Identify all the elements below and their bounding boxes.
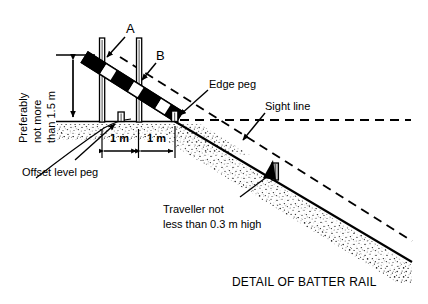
- label-b-group: B: [142, 48, 165, 80]
- sight-line-leader: [243, 113, 265, 140]
- dim-label-left: 1 m: [110, 132, 129, 144]
- edge-peg-label: Edge peg: [209, 78, 256, 90]
- traveller: [263, 160, 278, 180]
- height-note-line-3: than 1.5 m: [45, 91, 57, 143]
- sight-line-label: Sight line: [265, 100, 310, 112]
- offset-level-peg-label: Offset level peg: [22, 166, 98, 178]
- figure-root: Preferably not more than 1.5 m: [0, 0, 428, 304]
- traveller-note-line-1: Traveller not: [163, 203, 224, 215]
- label-a: A: [126, 21, 135, 36]
- dim-label-right: 1 m: [147, 132, 166, 144]
- batter-rail-board: [81, 52, 182, 122]
- batter-rail-diagram: Preferably not more than 1.5 m: [0, 0, 428, 304]
- label-edge-peg-group: Edge peg: [180, 78, 256, 115]
- label-a-leader: [107, 37, 125, 57]
- ground-mass: [57, 124, 412, 283]
- post-b: [137, 38, 142, 122]
- label-a-group: A: [107, 21, 135, 57]
- edge-peg: [172, 111, 178, 122]
- label-b-leader: [142, 63, 156, 80]
- post-a: [100, 38, 105, 122]
- height-note-line-2: not more: [31, 100, 43, 143]
- offset-level-peg: [118, 112, 124, 122]
- traveller-note-line-2: less than 0.3 m high: [163, 218, 261, 230]
- figure-title: DETAIL OF BATTER RAIL: [232, 275, 377, 289]
- edge-peg-leader: [180, 90, 208, 115]
- label-b: B: [156, 48, 165, 63]
- height-note-block: Preferably not more than 1.5 m: [17, 91, 57, 143]
- batter-slope-face: [175, 122, 412, 263]
- height-note-line-1: Preferably: [17, 92, 29, 143]
